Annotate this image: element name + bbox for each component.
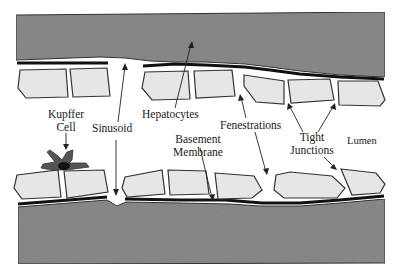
cell (215, 173, 262, 199)
arrowhead (263, 168, 269, 175)
basement-membrane-label: Basement Membrane (168, 133, 228, 159)
bottom-basement-membrane-right (125, 196, 384, 203)
arrowhead (287, 103, 293, 110)
cell (122, 170, 165, 197)
arrowhead (330, 103, 336, 110)
bottom-endothelial-cells (14, 169, 385, 199)
bottom-tissue (18, 196, 385, 264)
cell (14, 170, 61, 199)
kupffer-cell-label: Kupffer Cell (40, 108, 92, 134)
sinusoid-label: Sinusoid (92, 122, 132, 135)
arrowhead (122, 63, 128, 70)
fenestrations-label: Fenestrations (220, 119, 281, 132)
cell (168, 170, 209, 195)
tight-junctions-arrow-left (289, 105, 303, 132)
cell (70, 68, 110, 97)
cell (338, 81, 385, 106)
cell (341, 169, 385, 195)
liver-sinusoid-diagram: Kupffer Cell Sinusoid Hepatocytes Baseme… (0, 0, 401, 279)
arrowhead (63, 144, 69, 150)
tight-junctions-arrow-right (318, 105, 334, 132)
arrowhead (238, 94, 244, 101)
cell (64, 170, 108, 198)
arrowhead (113, 189, 119, 196)
cell (194, 70, 235, 98)
fenestrations-arrow-down (255, 132, 266, 172)
arrowhead (330, 164, 337, 170)
tight-junctions-label: Tight Junctions (286, 131, 338, 157)
lumen-label: Lumen (347, 134, 377, 147)
kupffer-cell (41, 150, 89, 170)
cell (244, 75, 284, 104)
cell (18, 69, 68, 98)
cell (274, 172, 345, 198)
hepatocytes-label: Hepatocytes (142, 108, 199, 121)
sinusoid-arrow-up (118, 66, 125, 122)
cell (288, 79, 334, 103)
